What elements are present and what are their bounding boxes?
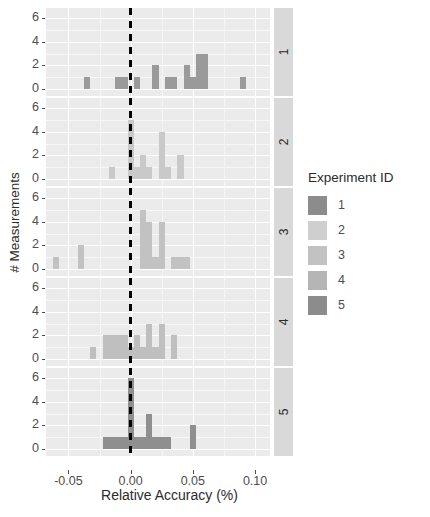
y-axis-tick-label: 4 — [32, 394, 39, 408]
legend-label: 4 — [338, 273, 345, 287]
gridline-vertical — [68, 368, 69, 456]
x-axis-tick-label: 0.10 — [243, 474, 267, 488]
plot-area — [46, 98, 270, 186]
histogram-bar — [184, 257, 190, 269]
histogram-bar — [109, 167, 115, 179]
y-axis-tick-label: 4 — [32, 304, 39, 318]
histogram-bar — [165, 437, 171, 449]
y-axis-tick-label: 2 — [32, 327, 39, 341]
gridline-vertical — [255, 278, 256, 366]
gridline-vertical-minor — [100, 368, 101, 456]
gridline-vertical — [68, 8, 69, 96]
gridline-vertical — [68, 188, 69, 276]
plot-area — [46, 278, 270, 366]
facet-panel-group: 12345 — [46, 8, 293, 470]
gridline-vertical-minor — [224, 98, 225, 186]
facet-panel: 5 — [46, 368, 293, 456]
gridline-horizontal-minor — [46, 30, 270, 31]
histogram-bar — [240, 77, 246, 89]
y-axis-tick-label: 6 — [32, 100, 39, 114]
facet-panel: 3 — [46, 188, 293, 276]
legend-label: 3 — [338, 248, 345, 262]
histogram-bar — [159, 324, 165, 359]
gridline-horizontal — [46, 42, 270, 43]
legend-item[interactable]: 4 — [308, 269, 394, 291]
reference-line — [129, 278, 131, 366]
legend-item-list: 12345 — [308, 194, 394, 316]
gridline-horizontal — [46, 378, 270, 379]
y-axis-tick-label: 2 — [32, 417, 39, 431]
histogram-bar — [190, 425, 196, 449]
facet-strip: 2 — [274, 98, 293, 186]
gridline-horizontal — [46, 288, 270, 289]
y-axis-tick-label: 4 — [32, 214, 39, 228]
gridline-vertical — [255, 368, 256, 456]
gridline-vertical — [255, 98, 256, 186]
histogram-bar — [177, 155, 183, 179]
gridline-vertical-minor — [162, 8, 163, 96]
gridline-horizontal — [46, 198, 270, 199]
histogram-bar — [53, 257, 59, 269]
x-axis-tick-label: 0.05 — [181, 474, 205, 488]
gridline-horizontal — [46, 269, 270, 270]
facet-strip-label: 4 — [277, 319, 291, 326]
reference-line — [129, 98, 131, 186]
facet-panel: 4 — [46, 278, 293, 366]
facet-strip: 4 — [274, 278, 293, 366]
gridline-vertical-minor — [100, 188, 101, 276]
gridline-vertical-minor — [100, 8, 101, 96]
legend-item[interactable]: 5 — [308, 294, 394, 316]
legend-swatch — [308, 221, 327, 240]
reference-line — [129, 368, 131, 456]
facet-strip-label: 5 — [277, 409, 291, 416]
chart-root: # Measurements 02460246024602460246 1234… — [0, 0, 430, 517]
legend-title: Experiment ID — [308, 170, 394, 185]
reference-line — [129, 188, 131, 276]
y-axis-tick-label: 6 — [32, 10, 39, 24]
facet-strip: 5 — [274, 368, 293, 456]
histogram-bar — [78, 245, 84, 269]
histogram-bar — [134, 77, 140, 89]
legend-swatch — [308, 196, 327, 215]
y-axis-tick-mark — [42, 402, 45, 403]
gridline-horizontal — [46, 449, 270, 450]
y-axis-tick-mark — [42, 198, 45, 199]
histogram-bar — [121, 77, 127, 89]
y-axis-tick-mark — [42, 245, 45, 246]
gridline-horizontal — [46, 89, 270, 90]
legend-label: 2 — [338, 223, 345, 237]
y-axis-tick-mark — [42, 312, 45, 313]
gridline-vertical-minor — [224, 278, 225, 366]
y-axis-tick-label: 6 — [32, 280, 39, 294]
gridline-horizontal — [46, 425, 270, 426]
legend-item[interactable]: 1 — [308, 194, 394, 216]
gridline-vertical — [68, 98, 69, 186]
y-axis-tick-mark — [42, 378, 45, 379]
y-axis-tick-label: 6 — [32, 190, 39, 204]
histogram-bar — [146, 167, 152, 179]
histogram-bar — [159, 222, 165, 269]
y-axis-title: # Measurements — [7, 123, 22, 323]
legend-item[interactable]: 2 — [308, 219, 394, 241]
x-axis-tick-label: 0.00 — [118, 474, 142, 488]
y-axis-tick-mark — [42, 18, 45, 19]
y-axis-tick-mark — [42, 65, 45, 66]
facet-strip-label: 2 — [277, 139, 291, 146]
y-axis-tick-mark — [42, 449, 45, 450]
y-axis-tick-label: 0 — [32, 441, 39, 455]
gridline-vertical — [68, 278, 69, 366]
gridline-horizontal — [46, 402, 270, 403]
facet-strip-label: 3 — [277, 229, 291, 236]
facet-panel: 2 — [46, 98, 293, 186]
histogram-bar — [152, 65, 158, 89]
plot-area — [46, 368, 270, 456]
y-axis-tick-mark — [42, 89, 45, 90]
x-axis-title: Relative Accuracy (%) — [46, 487, 293, 503]
legend-item[interactable]: 3 — [308, 244, 394, 266]
y-axis-tick-mark — [42, 155, 45, 156]
y-axis-tick-mark — [42, 288, 45, 289]
plot-area — [46, 8, 270, 96]
y-axis-tick-label: 0 — [32, 261, 39, 275]
reference-line — [129, 8, 131, 96]
gridline-horizontal — [46, 108, 270, 109]
